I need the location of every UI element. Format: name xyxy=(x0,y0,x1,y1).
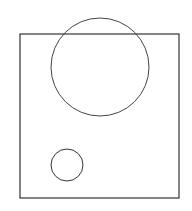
small-circle xyxy=(51,149,83,181)
diagram-canvas xyxy=(0,0,192,211)
large-circle xyxy=(51,18,149,116)
